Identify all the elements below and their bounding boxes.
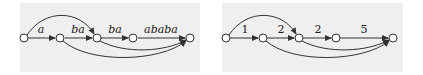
node [56, 34, 64, 42]
node [129, 34, 137, 42]
edge-label: 2 [315, 23, 322, 36]
node [186, 34, 194, 42]
edge-label: ababa [144, 23, 178, 36]
node [332, 34, 340, 42]
edge-label: ba [108, 23, 122, 36]
skip-edge-1-3 [229, 15, 296, 35]
edge-label: 1 [242, 23, 249, 36]
edge-label: ba [71, 23, 85, 36]
node [295, 34, 303, 42]
node [259, 34, 267, 42]
diagrams-canvas: a ba ba ababa 1 2 2 5 [0, 0, 423, 75]
node [389, 34, 397, 42]
node [222, 34, 230, 42]
node [20, 34, 28, 42]
node [93, 34, 101, 42]
edge-label: a [38, 23, 45, 36]
skip-edge-2-5 [63, 41, 186, 58]
edge-label: 5 [361, 23, 368, 36]
edge-label: 2 [278, 23, 285, 36]
right-diagram [229, 15, 389, 57]
left-diagram [27, 15, 186, 57]
